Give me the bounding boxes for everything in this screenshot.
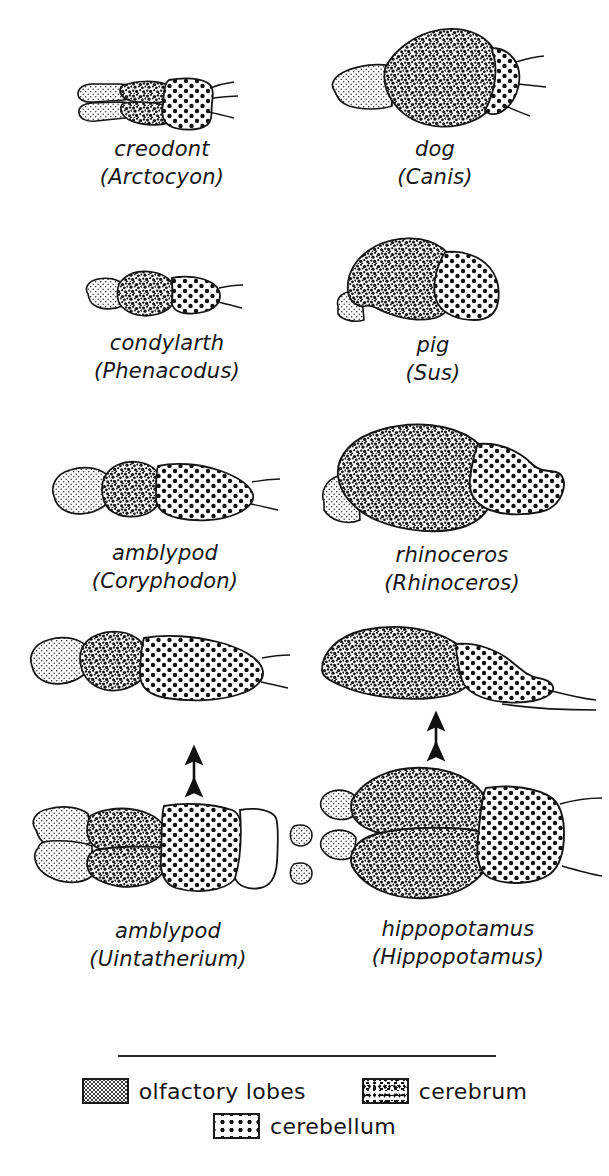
brain-comparison-figure: creodont (Arctocyon) dog (Canis): [0, 0, 609, 1176]
nerve-stroke: [219, 285, 243, 288]
nerve-stroke: [548, 690, 596, 700]
common-name-pig: pig: [416, 333, 449, 357]
panel-amblypod-coryphodon: amblypod (Coryphodon): [40, 448, 290, 595]
swatch-olfactory-lobes-icon: [82, 1078, 129, 1104]
brain-illustration-condylarth: [72, 258, 262, 330]
region-cerebellum: [456, 644, 553, 703]
nerve-stroke: [502, 704, 596, 710]
legend-label-olfactory-lobes: olfactory lobes: [139, 1079, 306, 1104]
brain-illustration-creodont: [62, 58, 262, 136]
common-name-amblypod-coryphodon: amblypod: [112, 541, 218, 565]
region-cerebellum: [162, 78, 213, 129]
panel-amblypod-uintatherium-dorsal: amblypod (Uintatherium): [18, 792, 318, 973]
scientific-name-rhinoceros: (Rhinoceros): [318, 570, 586, 598]
common-name-creodont: creodont: [114, 137, 209, 161]
brain-illustration-hippopotamus-lateral: [316, 620, 602, 720]
brain-illustration-pig: [328, 228, 538, 332]
legend-label-cerebrum: cerebrum: [419, 1079, 528, 1104]
scientific-name-hippopotamus: (Hippopotamus): [310, 944, 606, 972]
panel-dog: dog (Canis): [320, 18, 550, 191]
panel-condylarth: condylarth (Phenacodus): [72, 258, 262, 385]
nerve-stroke: [251, 504, 278, 510]
view-link-arrow-hippopotamus: [424, 714, 448, 758]
region-detached-lobe: [290, 825, 312, 846]
nerve-stroke: [560, 798, 602, 804]
brain-illustration-hippopotamus-dorsal: [310, 760, 606, 912]
panel-pig: pig (Sus): [328, 228, 538, 387]
nerve-stroke: [213, 96, 238, 98]
caption-creodont: creodont (Arctocyon): [62, 136, 262, 191]
swatch-cerebrum-icon: [362, 1078, 409, 1104]
swatch-cerebellum-icon: [213, 1113, 260, 1139]
region-detached-lobe: [290, 863, 312, 884]
caption-rhinoceros: rhinoceros (Rhinoceros): [318, 542, 586, 597]
nerve-stroke: [262, 655, 290, 658]
region-cerebellum: [470, 444, 564, 515]
region-cerebellum: [477, 786, 564, 882]
legend-row-primary: olfactory lobes cerebrum: [0, 1078, 609, 1104]
region-cerebrum: [117, 272, 175, 316]
legend-item-olfactory-lobes: olfactory lobes: [82, 1078, 306, 1104]
caption-hippopotamus: hippopotamus (Hippopotamus): [310, 916, 606, 971]
legend: olfactory lobes cerebrum cerebellum: [0, 1078, 609, 1139]
common-name-dog: dog: [415, 137, 455, 161]
brain-illustration-uintatherium-lateral: [18, 622, 298, 732]
scientific-name-amblypod-uintatherium: (Uintatherium): [18, 946, 318, 974]
brain-illustration-uintatherium-dorsal: [18, 792, 318, 912]
caption-condylarth: condylarth (Phenacodus): [72, 330, 262, 385]
region-olfactory-lobes: [35, 841, 92, 883]
nerve-stroke: [218, 302, 242, 308]
brain-illustration-amblypod-coryphodon: [40, 448, 290, 540]
region-cerebrum: [80, 632, 148, 691]
nerve-stroke: [261, 682, 288, 688]
panel-hippopotamus-dorsal: hippopotamus (Hippopotamus): [310, 760, 606, 971]
region-cerebrum: [351, 828, 492, 898]
scientific-name-creodont: (Arctocyon): [62, 164, 262, 192]
common-name-rhinoceros: rhinoceros: [396, 543, 509, 567]
region-olfactory-lobes: [333, 65, 393, 109]
panel-amblypod-uintatherium-lateral: [18, 622, 298, 732]
nerve-stroke: [252, 479, 280, 482]
nerve-stroke: [516, 56, 544, 62]
nerve-stroke: [506, 106, 530, 116]
region-cerebellum: [140, 636, 263, 700]
brain-illustration-rhinoceros: [318, 418, 586, 542]
panel-hippopotamus-lateral: [316, 620, 602, 720]
brain-illustration-dog: [320, 18, 550, 136]
common-name-amblypod-uintatherium: amblypod: [115, 919, 221, 943]
view-link-arrow-uintatherium: [182, 748, 206, 794]
nerve-stroke: [209, 112, 234, 118]
region-cerebellum: [161, 804, 241, 891]
legend-item-cerebellum: cerebellum: [213, 1113, 396, 1139]
caption-amblypod-coryphodon: amblypod (Coryphodon): [40, 540, 290, 595]
region-cerebrum: [87, 847, 168, 887]
legend-divider: [118, 1055, 496, 1057]
nerve-stroke: [562, 866, 602, 876]
region-cerebrum: [102, 462, 163, 517]
region-medulla: [235, 809, 278, 889]
scientific-name-amblypod-coryphodon: (Coryphodon): [40, 568, 290, 596]
common-name-hippopotamus: hippopotamus: [381, 917, 534, 941]
scientific-name-dog: (Canis): [320, 164, 550, 192]
region-cerebellum: [156, 464, 253, 520]
caption-amblypod-uintatherium: amblypod (Uintatherium): [18, 918, 318, 973]
region-cerebellum: [172, 277, 220, 314]
region-cerebellum: [434, 252, 498, 320]
caption-pig: pig (Sus): [328, 332, 538, 387]
region-cerebrum: [384, 29, 501, 127]
scientific-name-pig: (Sus): [328, 360, 538, 388]
common-name-condylarth: condylarth: [110, 331, 224, 355]
region-cerebrum: [322, 627, 473, 699]
panel-creodont: creodont (Arctocyon): [62, 58, 262, 191]
legend-row-secondary: cerebellum: [0, 1113, 609, 1139]
nerve-stroke: [210, 82, 234, 88]
scientific-name-condylarth: (Phenacodus): [72, 358, 262, 386]
legend-item-cerebrum: cerebrum: [362, 1078, 528, 1104]
nerve-stroke: [518, 84, 546, 87]
panel-rhinoceros: rhinoceros (Rhinoceros): [318, 418, 586, 597]
caption-dog: dog (Canis): [320, 136, 550, 191]
legend-label-cerebellum: cerebellum: [270, 1114, 396, 1139]
